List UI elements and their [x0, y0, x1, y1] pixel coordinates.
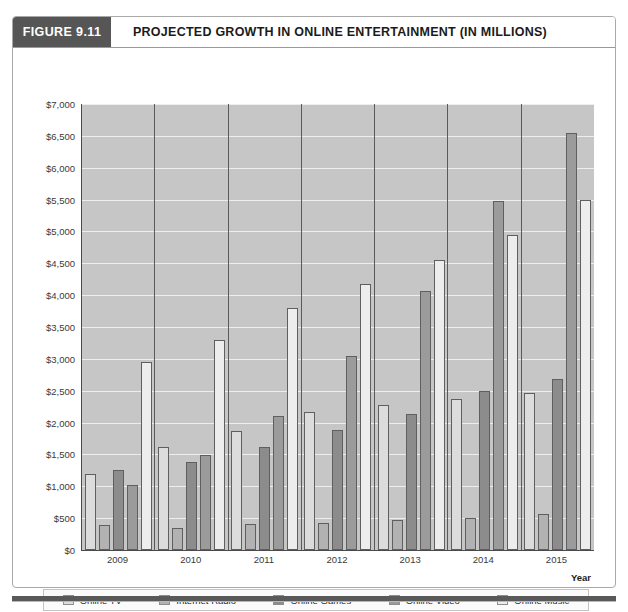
x-axis-tick-label: 2015 [520, 554, 593, 565]
chart-body: $7,000$6,500$6,000$5,500$5,000$4,500$4,0… [13, 48, 615, 589]
y-axis-tick-label: $4,500 [21, 258, 75, 269]
bar [259, 447, 270, 550]
y-axis-tick-label: $7,000 [21, 99, 75, 110]
y-axis-tick-label: $3,500 [21, 322, 75, 333]
bar-cluster-2011 [229, 104, 302, 550]
bottom-rule-shadow [12, 601, 616, 602]
bar [231, 431, 242, 550]
y-axis-tick-label: $2,500 [21, 385, 75, 396]
bar [465, 518, 476, 550]
bar [479, 391, 490, 550]
bar [493, 201, 504, 550]
x-axis-tick-label: 2012 [300, 554, 373, 565]
bar [538, 514, 549, 550]
bar [566, 133, 577, 550]
y-axis-tick-label: $6,500 [21, 130, 75, 141]
bar-cluster-2012 [302, 104, 375, 550]
x-axis-tick-label: 2010 [154, 554, 227, 565]
y-axis-tick-label: $6,000 [21, 162, 75, 173]
bar [580, 200, 591, 550]
y-axis-tick-label: $5,500 [21, 194, 75, 205]
bar [200, 455, 211, 550]
plot-area [81, 104, 594, 551]
bar [434, 260, 445, 550]
y-axis-labels: $7,000$6,500$6,000$5,500$5,000$4,500$4,0… [13, 104, 75, 550]
bar [287, 308, 298, 550]
bar [392, 520, 403, 550]
y-axis-tick-label: $1,500 [21, 449, 75, 460]
figure-number-badge: FIGURE 9.11 [13, 17, 111, 47]
bar [158, 447, 169, 550]
bar [214, 340, 225, 550]
bar [332, 430, 343, 550]
figure-container: FIGURE 9.11 PROJECTED GROWTH IN ONLINE E… [12, 16, 616, 588]
x-axis-tick-label: 2011 [227, 554, 300, 565]
bar [172, 528, 183, 550]
bar-cluster-2009 [82, 104, 155, 550]
bar [524, 393, 535, 550]
bar [304, 412, 315, 550]
y-axis-tick-label: $1,000 [21, 481, 75, 492]
x-axis-title: Year [13, 572, 591, 583]
y-axis-tick-label: $3,000 [21, 353, 75, 364]
bar [186, 462, 197, 550]
bar [113, 470, 124, 550]
bar [318, 523, 329, 550]
bar-cluster-2014 [448, 104, 521, 550]
bar-cluster-2013 [375, 104, 448, 550]
bar-cluster-2010 [155, 104, 228, 550]
bar [406, 414, 417, 550]
bar [420, 291, 431, 550]
bar [451, 399, 462, 550]
x-axis-tick-label: 2009 [81, 554, 154, 565]
y-axis-tick-label: $4,000 [21, 290, 75, 301]
x-axis-labels: 2009201020112012201320142015 [81, 554, 593, 565]
bar-clusters [82, 104, 594, 550]
figure-header: FIGURE 9.11 PROJECTED GROWTH IN ONLINE E… [13, 17, 615, 48]
figure-title: PROJECTED GROWTH IN ONLINE ENTERTAINMENT… [111, 17, 615, 47]
bar [552, 379, 563, 550]
bar [245, 524, 256, 550]
bar [273, 416, 284, 550]
y-axis-tick-label: $500 [21, 513, 75, 524]
x-axis-tick-label: 2013 [374, 554, 447, 565]
y-axis-tick-label: $2,000 [21, 417, 75, 428]
y-axis-tick-label: $0 [21, 545, 75, 556]
bar [360, 284, 371, 550]
bar [99, 525, 110, 550]
bar [85, 474, 96, 550]
x-axis-tick-label: 2014 [447, 554, 520, 565]
bar [378, 405, 389, 550]
bar-cluster-2015 [522, 104, 594, 550]
bar [141, 362, 152, 550]
y-axis-tick-label: $5,000 [21, 226, 75, 237]
bar [127, 485, 138, 550]
bar [507, 235, 518, 550]
bar [346, 356, 357, 550]
